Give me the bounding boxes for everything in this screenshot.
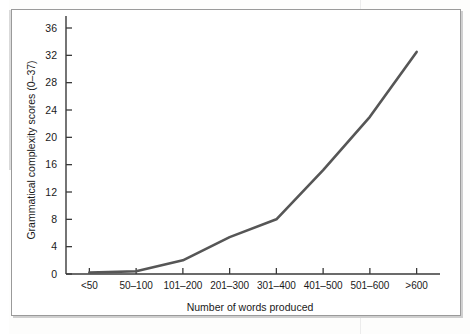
x-tick-label: 101–200 bbox=[163, 280, 202, 291]
y-tick-label: 0 bbox=[51, 268, 57, 280]
chart-plot-area: 04812162024283236 <5050–100101–200201–30… bbox=[0, 0, 470, 334]
line-chart: 04812162024283236 <5050–100101–200201–30… bbox=[0, 0, 470, 334]
x-tick-label: 501–600 bbox=[350, 280, 389, 291]
y-tick-label: 4 bbox=[51, 240, 57, 252]
x-tick-label: >600 bbox=[405, 280, 428, 291]
data-series-line bbox=[89, 52, 416, 273]
x-tick-label: 201–300 bbox=[210, 280, 249, 291]
y-axis-title: Grammatical complexity scores (0–37) bbox=[25, 60, 37, 239]
x-tick-label: 301–400 bbox=[257, 280, 296, 291]
y-tick-label: 32 bbox=[45, 49, 57, 61]
y-tick-label: 20 bbox=[45, 131, 57, 143]
y-tick-label: 28 bbox=[45, 76, 57, 88]
y-tick-label: 24 bbox=[45, 104, 57, 116]
y-tick-label: 16 bbox=[45, 158, 57, 170]
y-tick-label: 12 bbox=[45, 186, 57, 198]
y-tick-label: 36 bbox=[45, 22, 57, 34]
page-background: 04812162024283236 <5050–100101–200201–30… bbox=[0, 0, 470, 334]
x-tick-label: 401–500 bbox=[304, 280, 343, 291]
series-line bbox=[89, 52, 416, 273]
x-tick-label: <50 bbox=[81, 280, 98, 291]
x-tick-label: 50–100 bbox=[119, 280, 153, 291]
x-axis-title: Number of words produced bbox=[187, 301, 314, 313]
y-axis: 04812162024283236 bbox=[45, 16, 72, 280]
y-tick-label: 8 bbox=[51, 213, 57, 225]
